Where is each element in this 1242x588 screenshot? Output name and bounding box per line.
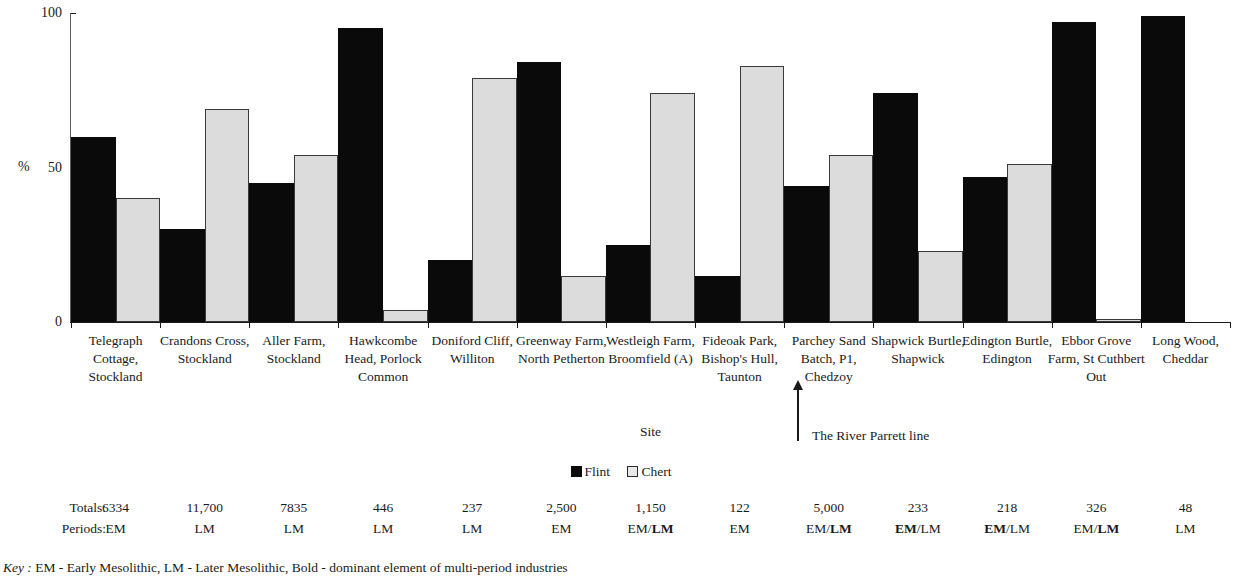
- x-tick-mark: [160, 322, 161, 328]
- bar-group: [338, 13, 427, 322]
- x-axis-title-wrap: Site: [0, 424, 1242, 440]
- totals-periods-table: Totals: Periods: 6334EM11,700LM7835LM446…: [0, 497, 1242, 543]
- x-axis-line: [70, 322, 1230, 323]
- x-tick-mark: [963, 322, 964, 328]
- x-category-label: Aller Farm, Stockland: [243, 332, 344, 368]
- x-tick-mark: [1141, 322, 1142, 328]
- period-part: EM: [105, 521, 125, 536]
- bar-flint: [963, 177, 1008, 322]
- x-tick-mark: [606, 322, 607, 328]
- key-label: Key :: [3, 560, 32, 575]
- period-part: /LM: [1006, 521, 1030, 536]
- bar-group: [784, 13, 873, 322]
- river-parrett-annotation: The River Parrett line: [812, 428, 929, 444]
- bar-flint: [517, 62, 562, 322]
- x-tick-mark: [695, 322, 696, 328]
- bar-flint: [428, 260, 473, 322]
- period-part: EM/: [806, 521, 830, 536]
- period-part: LM: [1097, 521, 1119, 536]
- y-tick-label-100: 100: [28, 6, 62, 20]
- period-part: EM: [551, 521, 571, 536]
- x-category-label: Hawkcombe Head, Porlock Common: [332, 332, 433, 386]
- period-part: LM: [284, 521, 304, 536]
- x-axis-title: Site: [640, 424, 661, 439]
- period-part: LM: [462, 521, 482, 536]
- bar-chert: [561, 276, 606, 322]
- y-tick-label-0: 0: [28, 315, 62, 329]
- legend-item-chert: Chert: [627, 464, 671, 480]
- x-tick-mark: [249, 322, 250, 328]
- x-category-label: Edington Burtle, Edington: [957, 332, 1058, 368]
- figure-root: % 100 50 0 Telegraph Cottage, StocklandC…: [0, 0, 1242, 588]
- bar-flint: [160, 229, 205, 322]
- bar-flint: [1141, 16, 1186, 322]
- x-axis-category-labels: Telegraph Cottage, StocklandCrandons Cro…: [71, 332, 1230, 422]
- bar-group: [963, 13, 1052, 322]
- legend-label-flint: Flint: [585, 464, 611, 479]
- x-tick-mark: [71, 322, 72, 328]
- bar-chert: [650, 93, 695, 322]
- bar-flint: [1052, 22, 1097, 322]
- chert-swatch-icon: [627, 466, 638, 477]
- period-part: LM: [652, 521, 674, 536]
- bar-group: [873, 13, 962, 322]
- totals-cell: 48: [1131, 497, 1240, 518]
- x-tick-mark: [338, 322, 339, 328]
- bar-group: [606, 13, 695, 322]
- period-part: LM: [195, 521, 215, 536]
- x-category-label: Ebbor Grove Farm, St Cuthbert Out: [1046, 332, 1147, 386]
- y-axis-tick-labels: 100 50 0: [28, 0, 62, 340]
- bar-flint: [71, 137, 116, 322]
- bar-group: [249, 13, 338, 322]
- period-part: LM: [1175, 521, 1195, 536]
- bar-chert: [1096, 319, 1141, 322]
- x-category-label: Greenway Farm, North Petherton: [511, 332, 612, 368]
- period-part: EM/: [1073, 521, 1097, 536]
- bar-group: [1052, 13, 1141, 322]
- x-category-label: Parchey Sand Batch, P1, Chedzoy: [778, 332, 879, 386]
- x-tick-mark: [428, 322, 429, 328]
- bar-chert: [116, 198, 161, 322]
- bar-chert: [1007, 164, 1052, 322]
- key-footnote: Key : EM - Early Mesolithic, LM - Later …: [3, 560, 568, 576]
- period-part: EM: [730, 521, 750, 536]
- x-category-label: Long Wood, Cheddar: [1135, 332, 1236, 368]
- legend: Flint Chert: [0, 464, 1242, 480]
- x-category-label: Westleigh Farm, Broomfield (A): [600, 332, 701, 368]
- bar-chert: [829, 155, 874, 322]
- x-category-label: Doniford Cliff, Williton: [422, 332, 523, 368]
- bar-group: [71, 13, 160, 322]
- y-tick-label-50: 50: [28, 161, 62, 175]
- bar-flint: [784, 186, 829, 322]
- legend-items: Flint Chert: [564, 464, 679, 480]
- period-part: LM: [830, 521, 852, 536]
- bar-chert: [383, 310, 428, 322]
- bar-chert: [918, 251, 963, 322]
- bar-chert: [472, 78, 517, 322]
- key-text: EM - Early Mesolithic, LM - Later Mesoli…: [35, 560, 567, 575]
- bar-flint: [695, 276, 740, 322]
- bar-flint: [873, 93, 918, 322]
- x-tick-mark: [784, 322, 785, 328]
- bar-flint: [338, 28, 383, 322]
- x-category-label: Fideoak Park, Bishop's Hull, Taunton: [689, 332, 790, 386]
- period-part: /LM: [917, 521, 941, 536]
- legend-label-chert: Chert: [641, 464, 671, 479]
- period-part: LM: [373, 521, 393, 536]
- x-tick-mark: [1230, 322, 1231, 328]
- bar-chert: [740, 66, 785, 322]
- bar-group: [1141, 13, 1230, 322]
- x-category-label: Telegraph Cottage, Stockland: [65, 332, 166, 386]
- legend-item-flint: Flint: [571, 464, 611, 480]
- period-part: EM: [984, 521, 1006, 536]
- bar-group: [695, 13, 784, 322]
- plot-area: % 100 50 0: [0, 0, 1242, 340]
- x-category-label: Shapwick Burtle, Shapwick: [867, 332, 968, 368]
- bar-group: [428, 13, 517, 322]
- flint-swatch-icon: [571, 466, 582, 477]
- bar-flint: [606, 245, 651, 322]
- x-category-label: Crandons Cross, Stockland: [154, 332, 255, 368]
- period-part: EM/: [628, 521, 652, 536]
- periods-cell: LM: [1131, 518, 1240, 539]
- bar-groups-container: [71, 13, 1230, 322]
